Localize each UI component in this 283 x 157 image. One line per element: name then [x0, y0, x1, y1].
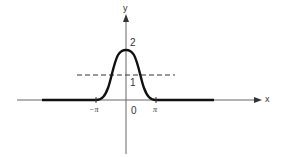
function-graph: y x 2 1 0 −π π: [0, 0, 283, 157]
y-axis-label: y: [123, 4, 128, 13]
graph-canvas: [0, 0, 283, 157]
y-axis-arrow-icon: [123, 14, 129, 22]
x-tick-label-pos-pi: π: [153, 106, 157, 114]
y-tick-label-1: 1: [130, 78, 136, 88]
x-tick-label-neg-pi: −π: [89, 106, 98, 114]
x-axis-label: x: [265, 95, 270, 104]
origin-label: 0: [131, 106, 137, 116]
y-tick-label-2: 2: [130, 38, 136, 48]
x-axis-arrow-icon: [254, 97, 262, 103]
